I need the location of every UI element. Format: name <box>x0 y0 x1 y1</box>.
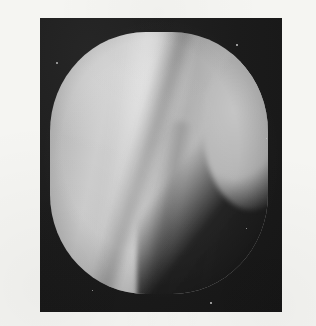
specimen-vignette <box>50 32 268 294</box>
specimen-squircle <box>50 32 268 294</box>
scanned-page: At the termination of the cutaneous <box>0 0 316 326</box>
caption-strip: At the termination of the cutaneous <box>0 0 316 13</box>
figure-caption: At the termination of the cutaneous <box>0 0 316 2</box>
photo-panel <box>40 18 282 312</box>
emulsion-speck <box>210 302 212 304</box>
emulsion-speck <box>56 62 58 64</box>
emulsion-speck <box>236 44 238 46</box>
